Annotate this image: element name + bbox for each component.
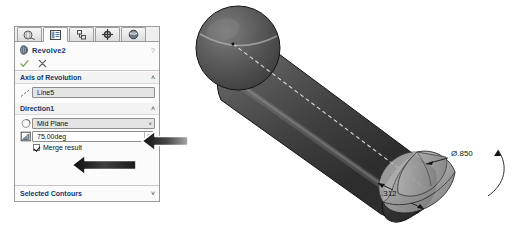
callout-arrow-angle [70,152,138,179]
feature-action-row [15,58,159,71]
dimxpert-manager-tab[interactable] [95,27,120,41]
group-header-direction1[interactable]: Direction1 ˄ [15,103,159,115]
group-header-axis-of-revolution[interactable]: Axis of Revolution ˄ [15,72,159,84]
merge-result-row[interactable]: Merge result [19,144,155,151]
length-dimension[interactable]: .312 [381,189,397,198]
feature-manager-tab[interactable] [17,27,42,41]
display-sphere-icon [128,29,139,40]
group-body-direction1: Mid Plane ˅ 75.00deg [15,115,159,154]
group-title-axis-of-revolution: Axis of Revolution [20,74,151,81]
group-selected-contours: Selected Contours ˅ [15,185,159,200]
angle-dim-icon [19,131,32,142]
group-direction1: Direction1 ˄ Mid Plane ˅ [15,103,159,154]
diameter-dimension[interactable]: Ø.850 [451,149,473,158]
axis-selection-field[interactable]: Line5 [32,87,155,98]
sphere-head [196,6,280,90]
end-condition-row: Mid Plane ˅ [19,118,155,129]
tree-feature-icon [23,30,36,40]
chevron-down-icon[interactable]: ˅ [151,190,155,197]
chevron-up-icon[interactable]: ˄ [151,105,155,112]
group-body-axis-of-revolution: Line5 [15,84,159,103]
feature-title-row: Revolve2 ? [15,43,159,58]
end-condition-value: Mid Plane [37,120,148,127]
merge-result-checkbox[interactable] [33,144,40,151]
x-icon[interactable] [38,59,47,69]
dimxpert-target-icon [102,29,113,40]
group-title-selected-contours: Selected Contours [20,190,151,197]
group-header-selected-contours[interactable]: Selected Contours ˅ [15,186,159,200]
configuration-icon [76,30,87,40]
angle-row: 75.00deg [19,131,155,142]
feature-title: Revolve2 [32,46,151,55]
end-condition-dropdown[interactable]: Mid Plane ˅ [32,118,155,129]
axis-selection-row: Line5 [19,87,155,98]
revolve-feature-icon [19,45,29,56]
angle-input[interactable]: 75.00deg [32,131,155,142]
chevron-up-icon[interactable]: ˄ [151,74,155,81]
property-list-icon [50,30,61,40]
merge-result-label: Merge result [43,144,82,151]
help-icon[interactable]: ? [151,46,155,55]
axis-line-icon [19,87,32,98]
property-manager-tab-strip [15,27,159,42]
angle-value: 75.00deg [37,133,144,140]
graphics-viewport[interactable]: Ø.850 .312 [178,0,517,225]
chevron-down-icon[interactable]: ˅ [148,121,152,127]
group-axis-of-revolution: Axis of Revolution ˄ Line5 [15,72,159,103]
group-title-direction1: Direction1 [20,105,151,112]
configuration-manager-tab[interactable] [69,27,94,41]
check-icon[interactable] [20,59,29,69]
revolve-direction-icon [19,118,32,129]
display-manager-tab[interactable] [121,27,146,41]
property-manager-tab[interactable] [43,27,68,42]
